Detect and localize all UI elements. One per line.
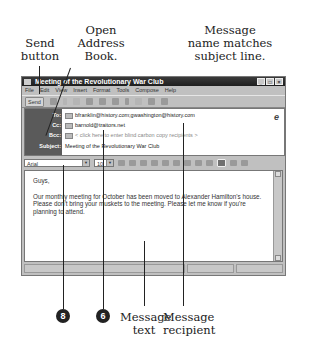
body-paragraph: Our monthly meeting for October has been…	[33, 193, 268, 216]
title-bar: Meeting of the Revolutionary War Club _ …	[22, 77, 285, 86]
vertical-scrollbar[interactable]	[273, 171, 282, 261]
annotation-message-text: Message text	[120, 311, 168, 337]
step-8-badge: 8	[56, 309, 70, 323]
scroll-up-icon[interactable]	[275, 171, 281, 177]
compose-window: Meeting of the Revolutionary War Club _ …	[21, 76, 286, 276]
subject-field[interactable]: Meeting of the Revolutionary War Club	[65, 142, 159, 151]
arrow-message-text	[144, 241, 145, 306]
menu-compose[interactable]: Compose	[135, 86, 159, 95]
bcc-placeholder: < click here to enter blind carbon copy …	[75, 132, 198, 138]
to-label: To:	[25, 111, 61, 120]
copy-icon[interactable]	[73, 98, 80, 105]
menu-edit[interactable]: Edit	[40, 86, 49, 95]
status-pane	[236, 264, 283, 273]
arrow-step-8	[63, 165, 64, 309]
address-card-icon[interactable]	[65, 133, 73, 139]
cc-label: Cc:	[25, 121, 61, 130]
vcard-icon[interactable]	[148, 98, 155, 105]
to-field[interactable]: bfranklin@history.com;gwashington@histor…	[65, 111, 195, 120]
annotation-line: subject line.	[180, 50, 280, 63]
minimize-icon[interactable]: _	[257, 78, 265, 85]
paragraph-style-icon[interactable]	[118, 160, 125, 166]
to-value: bfranklin@history.com;gwashington@histor…	[75, 112, 195, 118]
menu-insert[interactable]: Insert	[73, 86, 87, 95]
font-color-icon[interactable]	[162, 160, 169, 166]
greeting: Guys,	[33, 177, 268, 185]
bulleted-list-icon[interactable]	[184, 160, 191, 166]
scroll-down-icon[interactable]	[275, 255, 281, 261]
decrease-indent-icon[interactable]	[195, 160, 202, 166]
annotation-message-recipient: Message recipient	[163, 311, 207, 337]
align-center-icon[interactable]	[230, 160, 237, 166]
window-title: Meeting of the Revolutionary War Club	[35, 78, 163, 85]
menu-file[interactable]: File	[25, 86, 34, 95]
chevron-down-icon[interactable]: ▼	[82, 160, 89, 166]
arrow-step-6	[103, 130, 104, 309]
encrypt-icon[interactable]	[161, 98, 168, 105]
cut-icon[interactable]	[63, 98, 67, 105]
italic-icon[interactable]	[140, 160, 147, 166]
font-value: Arial	[27, 161, 38, 167]
address-card-icon[interactable]	[65, 123, 73, 129]
font-select[interactable]: Arial ▼	[24, 159, 90, 167]
maximize-icon[interactable]: □	[266, 78, 274, 85]
message-icon	[24, 79, 31, 85]
close-icon[interactable]: ×	[275, 78, 283, 85]
status-pane	[24, 264, 185, 273]
attach-icon[interactable]	[125, 98, 129, 105]
address-book-icon[interactable]	[99, 98, 106, 105]
annotation-message-name: Message name matches subject line.	[180, 24, 280, 63]
menu-format[interactable]: Format	[93, 86, 110, 95]
address-card-icon[interactable]	[65, 113, 73, 119]
font-size-select[interactable]: 10 ▼	[94, 159, 114, 167]
paste-icon[interactable]	[86, 98, 93, 105]
status-pane	[187, 264, 234, 273]
numbered-list-icon[interactable]	[173, 160, 180, 166]
signature-icon[interactable]	[135, 98, 142, 105]
cc-value: barnold@traitors.net	[75, 122, 125, 128]
window-controls: _ □ ×	[257, 78, 283, 85]
subject-label: Subject:	[25, 142, 61, 151]
send-button[interactable]: Send	[25, 97, 44, 107]
annotation-address-book: Open Address Book.	[76, 24, 126, 63]
annotation-line: recipient	[163, 324, 207, 337]
bold-icon[interactable]	[129, 160, 136, 166]
annotation-line: Book.	[76, 50, 126, 63]
internet-explorer-icon: e	[274, 112, 279, 122]
message-text[interactable]: Guys, Our monthly meeting for October ha…	[33, 177, 268, 215]
subject-row: Subject: Meeting of the Revolutionary Wa…	[25, 142, 284, 151]
bcc-field[interactable]: < click here to enter blind carbon copy …	[65, 131, 198, 140]
bcc-row: Bcc: < click here to enter blind carbon …	[25, 131, 284, 140]
underline-icon[interactable]	[151, 160, 158, 166]
arrow-message-recipient	[183, 123, 184, 306]
cc-field[interactable]: barnold@traitors.net	[65, 121, 125, 130]
check-names-icon[interactable]	[112, 98, 119, 105]
message-headers: To: bfranklin@history.com;gwashington@hi…	[24, 108, 285, 156]
cc-row: Cc: barnold@traitors.net	[25, 121, 284, 130]
menu-help[interactable]: Help	[165, 86, 176, 95]
to-row: To: bfranklin@history.com;gwashington@hi…	[25, 111, 284, 120]
step-6-badge: 6	[96, 309, 110, 323]
increase-indent-icon[interactable]	[206, 160, 213, 166]
annotation-line: text	[120, 324, 168, 337]
align-left-icon[interactable]	[217, 159, 226, 167]
chevron-down-icon[interactable]: ▼	[106, 160, 113, 166]
bcc-label: Bcc:	[25, 131, 61, 140]
annotation-send-button: Send button	[20, 37, 60, 63]
align-right-icon[interactable]	[241, 160, 248, 166]
arrow-send	[39, 66, 40, 94]
toolbar: Send	[22, 95, 285, 108]
annotation-line: button	[20, 50, 60, 63]
menu-tools[interactable]: Tools	[116, 86, 129, 95]
